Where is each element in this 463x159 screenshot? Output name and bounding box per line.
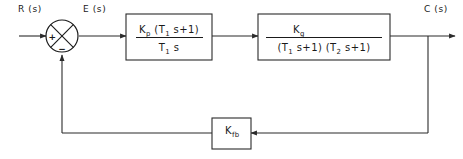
error-signal-label: E (s) <box>83 4 106 14</box>
plant-block[interactable]: Kg (T1 s+1) (T2 s+1) <box>258 14 390 60</box>
summing-junction[interactable]: + − <box>46 20 78 54</box>
sum-minus-sign: − <box>58 44 66 54</box>
feedback-block[interactable]: Kfb <box>212 118 251 149</box>
sum-plus-sign: + <box>48 32 56 42</box>
controller-block[interactable]: Kp (T1 s+1) T1 s <box>126 14 212 60</box>
input-signal-label: R (s) <box>18 4 42 14</box>
block-diagram-container: R (s) E (s) C (s) + − Kp ( <box>0 0 463 159</box>
diagram-canvas: R (s) E (s) C (s) + − Kp ( <box>0 0 463 159</box>
output-signal-label: C (s) <box>424 4 448 14</box>
